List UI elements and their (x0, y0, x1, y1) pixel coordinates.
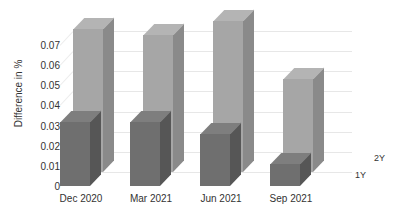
y-tick-label: 0.07 (41, 40, 60, 51)
bar-side-face (173, 24, 184, 172)
gridline-depth (60, 92, 74, 107)
y-tick-label: 0.05 (41, 80, 60, 91)
gridline-depth (60, 71, 74, 86)
bar-front-face (130, 122, 160, 186)
bar-side-face (103, 18, 114, 172)
bar-1Y-mar-2021 (130, 122, 160, 186)
y-tick-label: 0.02 (41, 140, 60, 151)
series-label-1Y: 1Y (355, 170, 366, 180)
bar-chart: Difference in % 00.010.020.030.040.050.0… (0, 0, 409, 218)
y-tick-label: 0.06 (41, 60, 60, 71)
bar-1Y-jun-2021 (200, 134, 230, 186)
y-tick-label: 0.04 (41, 100, 60, 111)
bar-front-face (270, 164, 300, 186)
bar-1Y-sep-2021 (270, 164, 300, 186)
gridline-depth (60, 51, 74, 66)
bar-side-face (243, 10, 254, 172)
bar-side-face (160, 110, 171, 186)
x-axis-label: Jun 2021 (200, 193, 241, 204)
bar-1Y-dec-2020 (60, 122, 90, 186)
gridline-depth (60, 31, 74, 46)
plot-area (0, 0, 409, 218)
bar-front-face (60, 122, 90, 186)
series-label-2Y: 2Y (374, 153, 385, 163)
x-axis-label: Dec 2020 (60, 193, 103, 204)
x-axis-label: Mar 2021 (130, 193, 172, 204)
bar-side-face (90, 110, 101, 186)
bar-front-face (200, 134, 230, 186)
y-tick-label: 0.01 (41, 160, 60, 171)
x-axis-label: Sep 2021 (270, 193, 313, 204)
bar-side-face (313, 68, 324, 172)
y-tick-label: 0.03 (41, 120, 60, 131)
y-axis-ticks: 00.010.020.030.040.050.060.07 (22, 0, 60, 218)
